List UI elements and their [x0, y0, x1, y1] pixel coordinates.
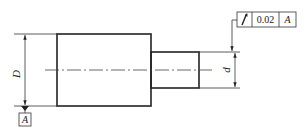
dimension-label-d: d — [220, 67, 232, 73]
circular-runout-icon — [242, 13, 248, 25]
dimension-label-D: D — [10, 70, 22, 79]
datum-label: A — [21, 114, 29, 125]
fcf-leader — [232, 20, 237, 51]
fcf-tolerance: 0.02 — [257, 14, 275, 25]
feature-control-frame: 0.02 A — [237, 12, 296, 27]
fcf-datum-ref: A — [283, 14, 291, 25]
technical-drawing: D A d 0.02 A — [0, 0, 308, 134]
